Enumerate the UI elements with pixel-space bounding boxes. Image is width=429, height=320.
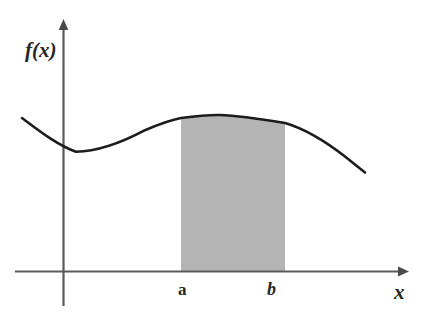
y-axis-label: f(x) bbox=[25, 40, 56, 61]
function-graph-figure: f(x) a b x bbox=[0, 0, 429, 320]
x-axis-label: x bbox=[394, 282, 405, 303]
x-axis-arrowhead-icon bbox=[398, 267, 409, 277]
upper-limit-label: b bbox=[267, 280, 276, 298]
shaded-area-region bbox=[181, 115, 285, 271]
plot-canvas bbox=[0, 0, 429, 320]
y-axis-arrowhead-icon bbox=[59, 19, 69, 30]
lower-limit-label: a bbox=[178, 281, 187, 298]
